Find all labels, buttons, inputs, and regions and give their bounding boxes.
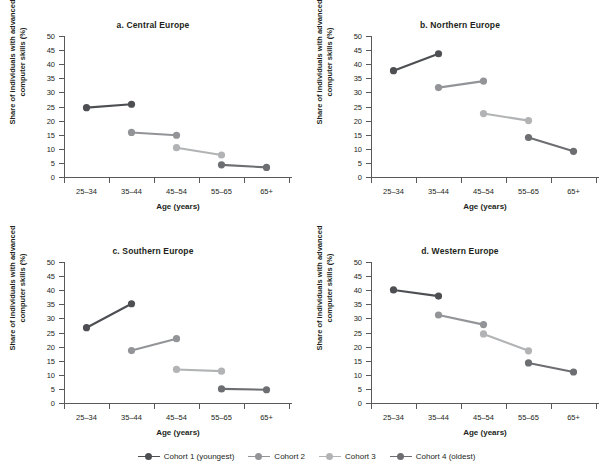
data-point-marker <box>173 132 180 139</box>
legend-item[interactable]: Cohort 4 (oldest) <box>390 452 476 461</box>
series-line <box>394 290 439 296</box>
series-line <box>529 138 574 152</box>
series-line <box>132 339 177 351</box>
series-line <box>484 114 529 121</box>
series-line <box>177 369 222 371</box>
series-line <box>394 54 439 71</box>
legend-marker-icon <box>390 452 412 461</box>
series-plot <box>307 240 613 460</box>
data-point-marker <box>480 330 487 337</box>
legend-marker-icon <box>138 452 160 461</box>
data-point-marker <box>525 117 532 124</box>
data-point-marker <box>435 84 442 91</box>
series-plot <box>0 240 306 460</box>
legend-label: Cohort 3 <box>345 452 376 461</box>
chart-legend: Cohort 1 (youngest)Cohort 2Cohort 3Cohor… <box>0 446 613 466</box>
x-axis-title: Age (years) <box>371 202 599 211</box>
data-point-marker <box>525 359 532 366</box>
series-line <box>132 132 177 135</box>
series-line <box>439 315 484 325</box>
data-point-marker <box>263 164 270 171</box>
data-point-marker <box>435 293 442 300</box>
series-plot <box>0 14 306 234</box>
legend-item[interactable]: Cohort 3 <box>319 452 376 461</box>
data-point-marker <box>480 110 487 117</box>
data-point-marker <box>83 104 90 111</box>
series-line <box>222 165 267 168</box>
data-point-marker <box>525 134 532 141</box>
series-line <box>439 81 484 87</box>
data-point-marker <box>173 366 180 373</box>
chart-panel-b: b. Northern Europe Share of individuals … <box>307 14 613 234</box>
data-point-marker <box>173 144 180 151</box>
x-axis-title: Age (years) <box>64 202 292 211</box>
data-point-marker <box>128 300 135 307</box>
legend-label: Cohort 4 (oldest) <box>416 452 476 461</box>
legend-label: Cohort 2 <box>274 452 305 461</box>
data-point-marker <box>83 324 90 331</box>
data-point-marker <box>525 347 532 354</box>
legend-label: Cohort 1 (youngest) <box>164 452 235 461</box>
chart-panel-d: d. Western Europe Share of individuals w… <box>307 240 613 460</box>
data-point-marker <box>218 151 225 158</box>
data-point-marker <box>480 321 487 328</box>
data-point-marker <box>480 78 487 85</box>
legend-item[interactable]: Cohort 1 (youngest) <box>138 452 235 461</box>
data-point-marker <box>570 368 577 375</box>
figure-canvas: a. Central Europe Share of individuals w… <box>0 0 613 472</box>
data-point-marker <box>435 311 442 318</box>
data-point-marker <box>570 148 577 155</box>
series-line <box>177 148 222 155</box>
data-point-marker <box>128 129 135 136</box>
series-plot <box>307 14 613 234</box>
chart-panel-c: c. Southern Europe Share of individuals … <box>0 240 306 460</box>
data-point-marker <box>390 286 397 293</box>
data-point-marker <box>128 347 135 354</box>
data-point-marker <box>263 386 270 393</box>
series-line <box>87 104 132 107</box>
series-line <box>484 334 529 351</box>
x-axis-title: Age (years) <box>64 428 292 437</box>
series-line <box>529 363 574 372</box>
x-axis-title: Age (years) <box>371 428 599 437</box>
data-point-marker <box>218 368 225 375</box>
legend-marker-icon <box>248 452 270 461</box>
chart-panel-a: a. Central Europe Share of individuals w… <box>0 14 306 234</box>
legend-marker-icon <box>319 452 341 461</box>
data-point-marker <box>173 335 180 342</box>
data-point-marker <box>390 67 397 74</box>
series-line <box>87 304 132 328</box>
series-line <box>222 389 267 390</box>
data-point-marker <box>218 385 225 392</box>
data-point-marker <box>218 161 225 168</box>
data-point-marker <box>435 50 442 57</box>
legend-item[interactable]: Cohort 2 <box>248 452 305 461</box>
data-point-marker <box>128 101 135 108</box>
